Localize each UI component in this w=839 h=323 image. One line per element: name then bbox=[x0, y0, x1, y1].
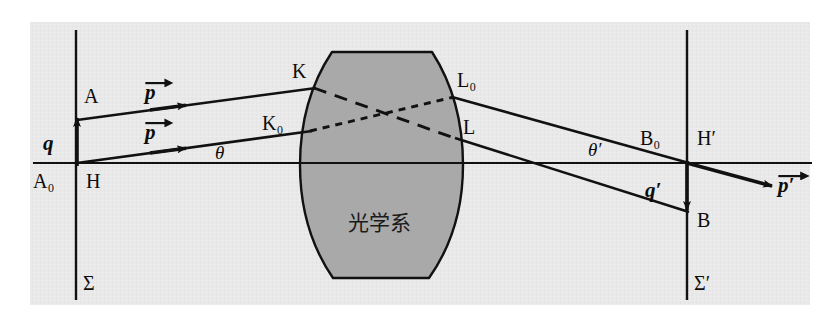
optics-diagram-figure: A A₀ H K K₀ L₀ L B₀ H′ B Σ Σ′ 光学系 θ θ′ q… bbox=[0, 0, 839, 323]
point-label-L: L bbox=[463, 117, 475, 137]
angle-label-theta-prime: θ′ bbox=[588, 140, 602, 159]
plane-label-sigma-prime: Σ′ bbox=[694, 273, 710, 293]
optical-system-lens bbox=[300, 52, 463, 278]
vector-label-p-prime: p′ bbox=[778, 175, 794, 196]
point-label-H-prime: H′ bbox=[697, 128, 716, 148]
point-label-H: H bbox=[86, 171, 100, 191]
point-label-K: K bbox=[292, 61, 306, 81]
vector-label-q: q bbox=[43, 133, 54, 154]
lens-label-optical-system: 光学系 bbox=[348, 213, 411, 234]
vector-label-p-upper: p bbox=[145, 82, 156, 103]
ray-diagram-canvas bbox=[0, 0, 839, 323]
point-label-L0: L₀ bbox=[457, 70, 476, 90]
point-label-B0: B₀ bbox=[640, 128, 660, 148]
vector-label-q-prime: q′ bbox=[645, 180, 661, 201]
point-label-B: B bbox=[697, 210, 710, 230]
plane-label-sigma: Σ bbox=[83, 273, 95, 293]
point-label-A: A bbox=[84, 86, 98, 106]
vector-label-p-lower: p bbox=[145, 122, 156, 143]
point-label-K0: K₀ bbox=[262, 113, 283, 133]
point-label-A0: A₀ bbox=[33, 171, 54, 191]
angle-label-theta: θ bbox=[215, 143, 224, 162]
